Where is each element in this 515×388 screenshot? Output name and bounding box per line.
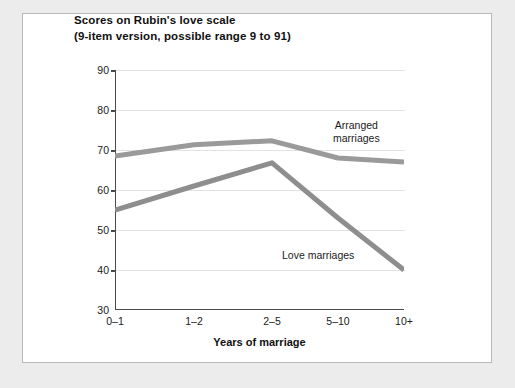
series-label-arranged-line1: Arranged xyxy=(333,119,380,132)
ytick-label-60: 60 xyxy=(83,185,109,196)
series-lines xyxy=(115,70,404,310)
ytick-label-50: 50 xyxy=(83,225,109,236)
x-axis-title: Years of marriage xyxy=(115,336,404,348)
y-axis-tick-labels: 90 80 70 60 50 40 30 xyxy=(81,70,109,310)
plot-wrapper: 90 80 70 60 50 40 30 Arranged marriages … xyxy=(0,0,515,388)
xtick-label-2-5: 2–5 xyxy=(263,315,281,327)
ytick-label-80: 80 xyxy=(83,105,109,116)
xtick-label-5-10: 5–10 xyxy=(326,315,349,327)
xtick-label-0-1: 0–1 xyxy=(106,315,124,327)
series-label-arranged-marriages: Arranged marriages xyxy=(333,119,380,145)
x-axis-tick-labels: 0–1 1–2 2–5 5–10 10+ xyxy=(115,315,404,331)
ytick-label-30: 30 xyxy=(83,305,109,316)
ytick-label-90: 90 xyxy=(83,65,109,76)
ytick-label-40: 40 xyxy=(83,265,109,276)
ytick-label-70: 70 xyxy=(83,145,109,156)
series-label-love-marriages: Love marriages xyxy=(282,249,354,262)
xtick-label-1-2: 1–2 xyxy=(185,315,203,327)
series-label-arranged-line2: marriages xyxy=(333,132,380,145)
line-love-marriages xyxy=(115,163,404,270)
xtick-label-10-plus: 10+ xyxy=(395,315,413,327)
